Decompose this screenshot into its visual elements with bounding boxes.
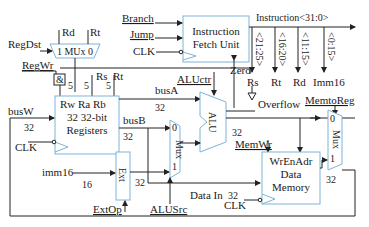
memtoreg-mux: 0 Mux 1 xyxy=(328,110,342,170)
jump-signal: Jump xyxy=(130,28,154,40)
svg-text:Instruction: Instruction xyxy=(192,25,240,37)
svg-text:Overflow: Overflow xyxy=(258,98,300,110)
svg-text:Rt: Rt xyxy=(113,70,123,82)
svg-text:<16:20>: <16:20> xyxy=(277,32,288,66)
svg-text:<11:15>: <11:15> xyxy=(300,32,311,66)
svg-text:Rt: Rt xyxy=(90,26,100,38)
svg-text:&: & xyxy=(56,74,64,85)
alusrc-signal: ALUSrc xyxy=(150,203,187,215)
svg-text:1: 1 xyxy=(330,153,335,164)
svg-text:32: 32 xyxy=(232,127,242,138)
svg-text:Mux: Mux xyxy=(331,130,342,149)
svg-text:Data: Data xyxy=(281,168,302,180)
svg-text:5: 5 xyxy=(68,80,73,91)
svg-text:32: 32 xyxy=(123,131,133,142)
svg-text:Rs: Rs xyxy=(247,76,259,88)
svg-text:WrEnAdr: WrEnAdr xyxy=(270,155,313,167)
svg-text:32: 32 xyxy=(326,174,336,185)
svg-text:Fetch Unit: Fetch Unit xyxy=(193,38,240,50)
instruction-fetch-unit: Instruction Fetch Unit xyxy=(183,16,249,62)
svg-text:CLK: CLK xyxy=(224,199,246,211)
svg-text:5: 5 xyxy=(84,80,89,91)
svg-text:32: 32 xyxy=(155,102,165,113)
regdst-mux: 1 MUx 0 xyxy=(50,44,100,58)
busb-label: busB xyxy=(123,114,146,126)
extop-signal: ExtOp xyxy=(93,203,122,215)
alu: ALU xyxy=(200,92,226,152)
alusrc-mux: 0 Mux 1 xyxy=(170,120,185,178)
svg-text:32: 32 xyxy=(24,122,34,133)
instruction-bus-label: Instruction<31:0> xyxy=(256,12,329,23)
imm16-label: imm16 xyxy=(42,166,74,178)
svg-text:5: 5 xyxy=(106,80,111,91)
svg-text:32: 32 xyxy=(135,177,145,188)
svg-text:1 MUx 0: 1 MUx 0 xyxy=(57,46,93,57)
aluctr-signal: ALUctr xyxy=(177,73,212,85)
memtoreg-signal: MemtoReg xyxy=(305,94,355,106)
branch-signal: Branch xyxy=(122,12,154,24)
svg-text:0: 0 xyxy=(330,113,335,124)
svg-text:Ext: Ext xyxy=(117,168,128,182)
svg-text:ALU: ALU xyxy=(207,112,218,133)
datapath-diagram: Instruction Fetch Unit Branch Jump CLK I… xyxy=(0,0,369,227)
svg-text:Registers: Registers xyxy=(67,124,108,136)
svg-text:<0:15>: <0:15> xyxy=(326,32,337,61)
svg-text:<21:25>: <21:25> xyxy=(254,32,265,66)
svg-text:1: 1 xyxy=(172,161,177,172)
data-memory: WrEnAdr Data Memory xyxy=(262,152,320,204)
instruction-fields: <21:25> <16:20> <11:15> <0:15> Rs Rt Rd … xyxy=(247,27,345,88)
ext-unit: Ext xyxy=(116,152,130,200)
svg-text:Rt: Rt xyxy=(271,76,281,88)
svg-text:0: 0 xyxy=(172,122,177,133)
svg-text:Memory: Memory xyxy=(272,181,310,193)
and-gate: & xyxy=(54,74,65,85)
regwr-signal: RegWr xyxy=(22,59,54,71)
svg-text:32 32-bit: 32 32-bit xyxy=(67,111,107,123)
svg-text:Rd: Rd xyxy=(62,26,75,38)
svg-text:Imm16: Imm16 xyxy=(313,76,345,88)
svg-text:Rd: Rd xyxy=(293,76,306,88)
regdst-signal: RegDst xyxy=(8,38,41,50)
svg-text:Zero: Zero xyxy=(230,64,251,76)
clk-signal-ifu: CLK xyxy=(133,45,155,57)
svg-text:16: 16 xyxy=(82,179,92,190)
svg-text:Data In: Data In xyxy=(190,189,223,201)
svg-text:CLK: CLK xyxy=(15,141,37,153)
svg-text:Rw Ra Rb: Rw Ra Rb xyxy=(60,98,106,110)
busa-label: busA xyxy=(155,84,178,96)
memwr-signal: MemWr xyxy=(235,138,272,150)
busw-label: busW xyxy=(8,105,34,117)
register-file: Rw Ra Rb 32 32-bit Registers xyxy=(55,96,119,154)
